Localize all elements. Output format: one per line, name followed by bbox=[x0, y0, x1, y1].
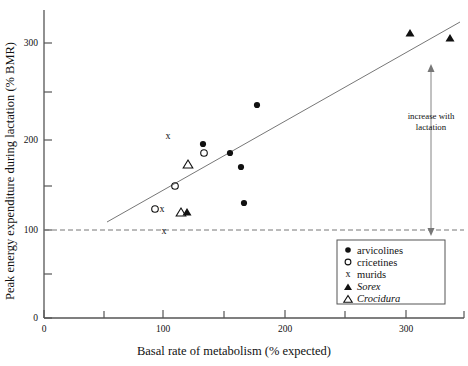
data-point bbox=[183, 160, 193, 168]
legend-label-sorex: Sorex bbox=[357, 281, 381, 292]
annotation-line-2: lactation bbox=[416, 122, 447, 132]
y-axis-tick-labels: 0 100 200 300 bbox=[24, 38, 39, 323]
increase-with-lactation-arrow bbox=[428, 64, 435, 236]
regression-line bbox=[107, 22, 460, 222]
y-tick-label-200: 200 bbox=[24, 135, 39, 145]
x-tick-label-0: 0 bbox=[42, 324, 47, 334]
x-tick-label-200: 200 bbox=[278, 324, 293, 334]
x-axis-tick-labels: 0 100 200 300 bbox=[42, 324, 414, 334]
data-point bbox=[406, 29, 415, 37]
data-point: x bbox=[166, 130, 171, 141]
x-tick-label-300: 300 bbox=[399, 324, 414, 334]
data-point bbox=[200, 141, 206, 147]
legend-label-crocidura: Crocidura bbox=[357, 293, 400, 304]
legend-marker-filled-circle bbox=[345, 247, 351, 253]
chart-legend: arvicolines cricetines x murids Sorex Cr… bbox=[337, 240, 445, 304]
scatter-plot-svg: Peak energy expenditure during lactation… bbox=[0, 0, 468, 366]
chart-figure: Peak energy expenditure during lactation… bbox=[0, 0, 468, 366]
x-tick-label-100: 100 bbox=[156, 324, 171, 334]
data-point bbox=[227, 150, 233, 156]
y-tick-label-300: 300 bbox=[24, 38, 39, 48]
data-point bbox=[241, 200, 247, 206]
data-point bbox=[254, 102, 260, 108]
series-murids: x x x bbox=[160, 130, 171, 236]
data-point: x bbox=[160, 203, 165, 214]
y-tick-label-100: 100 bbox=[24, 225, 39, 235]
data-point bbox=[201, 150, 208, 157]
series-arvicolines bbox=[200, 102, 260, 206]
x-axis-ticks bbox=[44, 310, 464, 318]
y-axis-title: Peak energy expenditure during lactation… bbox=[3, 42, 17, 300]
series-sorex bbox=[183, 29, 455, 216]
x-axis-title: Basal rate of metabolism (% expected) bbox=[137, 344, 331, 358]
y-axis-ticks bbox=[44, 43, 52, 318]
y-tick-label-0: 0 bbox=[33, 313, 38, 323]
data-point bbox=[446, 34, 455, 42]
annotation-line-1: increase with bbox=[408, 111, 455, 121]
legend-marker-x-icon: x bbox=[346, 268, 351, 279]
data-point bbox=[238, 164, 244, 170]
data-point: x bbox=[162, 225, 167, 236]
legend-label-murids: murids bbox=[357, 269, 386, 280]
legend-label-arvicolines: arvicolines bbox=[357, 245, 403, 256]
data-point bbox=[152, 206, 159, 213]
legend-label-cricetines: cricetines bbox=[357, 257, 397, 268]
series-crocidura bbox=[176, 160, 193, 216]
